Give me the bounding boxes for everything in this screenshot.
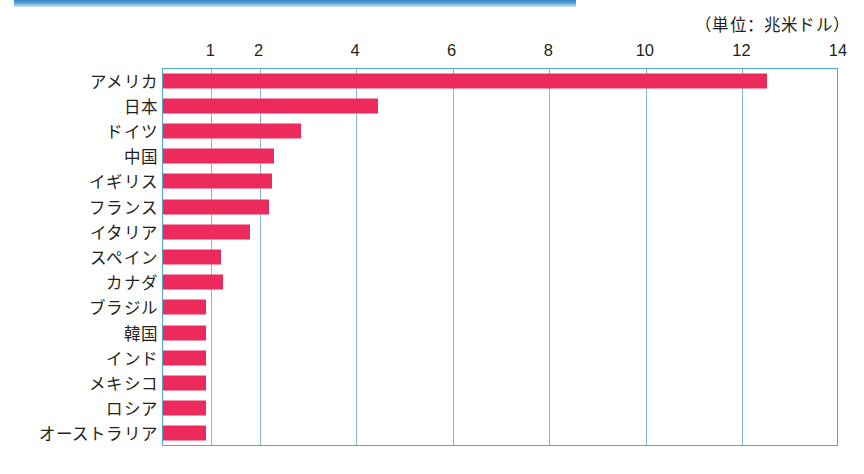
- paper-edge: [0, 468, 864, 474]
- x-tick-label-2: 2: [254, 42, 263, 59]
- category-label-6: イタリア: [90, 220, 158, 244]
- bar-row: インド: [0, 345, 864, 370]
- x-tick-label-12: 12: [732, 42, 750, 59]
- bar-rows: アメリカ日本ドイツ中国イギリスフランスイタリアスペインカナダブラジル韓国インドメ…: [0, 68, 864, 446]
- bar-row: メキシコ: [0, 370, 864, 395]
- x-tick-label-10: 10: [636, 42, 654, 59]
- bar-3: [163, 149, 274, 164]
- blue-header-band: [14, 0, 576, 7]
- bar-7: [163, 249, 221, 264]
- bar-6: [163, 224, 250, 239]
- category-label-1: 日本: [124, 94, 158, 118]
- category-label-4: イギリス: [89, 169, 158, 193]
- category-label-5: フランス: [89, 195, 158, 219]
- category-label-3: 中国: [124, 144, 158, 168]
- x-tick-label-8: 8: [544, 42, 553, 59]
- bar-row: ドイツ: [0, 118, 864, 143]
- bar-row: オーストラリア: [0, 421, 864, 446]
- bar-row: スペイン: [0, 244, 864, 269]
- bar-row: ロシア: [0, 396, 864, 421]
- category-label-14: オーストラリア: [39, 421, 158, 445]
- bar-row: イギリス: [0, 169, 864, 194]
- category-label-12: メキシコ: [89, 371, 158, 395]
- bar-10: [163, 325, 206, 340]
- x-tick-label-14: 14: [829, 42, 847, 59]
- x-tick-label-6: 6: [447, 42, 456, 59]
- unit-caption: （単位：兆米ドル）: [695, 12, 850, 36]
- chart-page: （単位：兆米ドル） 12468101214 アメリカ日本ドイツ中国イギリスフラン…: [0, 0, 864, 474]
- bar-9: [163, 300, 206, 315]
- bar-row: カナダ: [0, 270, 864, 295]
- category-label-0: アメリカ: [90, 69, 158, 93]
- bar-row: ブラジル: [0, 295, 864, 320]
- bar-row: 韓国: [0, 320, 864, 345]
- bar-row: イタリア: [0, 219, 864, 244]
- bar-row: 中国: [0, 144, 864, 169]
- bar-row: アメリカ: [0, 68, 864, 93]
- category-label-2: ドイツ: [106, 119, 158, 143]
- bar-row: 日本: [0, 93, 864, 118]
- bar-2: [163, 123, 301, 138]
- bar-0: [163, 73, 767, 88]
- category-label-7: スペイン: [90, 245, 158, 269]
- bar-14: [163, 426, 206, 441]
- category-label-13: ロシア: [106, 396, 158, 420]
- category-label-8: カナダ: [106, 270, 158, 294]
- bar-12: [163, 375, 206, 390]
- bar-11: [163, 350, 206, 365]
- bar-row: フランス: [0, 194, 864, 219]
- category-label-9: ブラジル: [89, 295, 158, 319]
- bar-13: [163, 401, 206, 416]
- bar-4: [163, 174, 272, 189]
- bar-8: [163, 275, 223, 290]
- bar-5: [163, 199, 269, 214]
- x-tick-label-4: 4: [351, 42, 360, 59]
- bar-1: [163, 98, 378, 113]
- category-label-10: 韓国: [124, 321, 158, 345]
- x-tick-label-1: 1: [206, 42, 215, 59]
- category-label-11: インド: [106, 346, 158, 370]
